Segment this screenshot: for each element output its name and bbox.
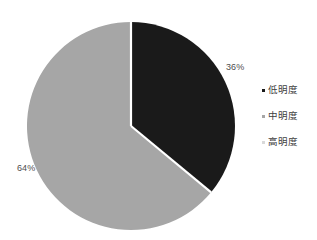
legend-item-high-brightness[interactable]: 高明度	[262, 136, 317, 148]
pie-svg	[0, 0, 250, 240]
pie-slices	[27, 22, 235, 230]
legend-marker-icon	[262, 115, 265, 118]
legend-item-low-brightness[interactable]: 低明度	[262, 84, 317, 96]
data-label-medium-brightness: 64%	[17, 164, 35, 173]
legend-label: 低明度	[268, 84, 298, 96]
legend-item-medium-brightness[interactable]: 中明度	[262, 110, 317, 122]
chart-legend: 低明度 中明度 高明度	[262, 84, 317, 148]
pie-plot-area: 36% 64%	[0, 0, 250, 240]
pie-chart-figure: 36% 64% 低明度 中明度 高明度	[0, 0, 317, 240]
legend-label: 高明度	[268, 136, 298, 148]
data-label-low-brightness: 36%	[226, 63, 244, 72]
legend-marker-icon	[262, 89, 265, 92]
legend-marker-icon	[262, 141, 265, 144]
legend-label: 中明度	[268, 110, 298, 122]
